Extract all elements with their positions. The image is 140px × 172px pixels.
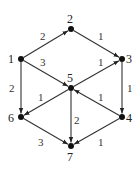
- edge-5-to-6: [24, 90, 68, 116]
- edge-weight-label: 1: [98, 56, 104, 68]
- graph-diagram: 21312111231 1234567: [0, 0, 140, 172]
- edge-weight-label: 1: [38, 91, 44, 103]
- node-5: [68, 85, 74, 91]
- node-label: 7: [67, 150, 73, 164]
- edge-weight-label: 2: [40, 30, 46, 42]
- edge-2-to-3: [74, 31, 119, 58]
- edge-weight-label: 2: [74, 114, 80, 126]
- node-4: [119, 114, 125, 120]
- edge-weight-label: 1: [127, 82, 133, 94]
- edge-weight-label: 3: [40, 56, 46, 68]
- node-label: 1: [8, 52, 14, 66]
- edge-weight-label: 2: [9, 82, 15, 94]
- node-2: [68, 26, 74, 32]
- edge-weight-label: 1: [98, 91, 104, 103]
- node-label: 3: [126, 52, 132, 66]
- node-1: [18, 56, 24, 62]
- edge-6-to-7: [24, 119, 68, 145]
- edge-5-to-3: [74, 61, 119, 87]
- node-3: [119, 56, 125, 62]
- edge-weight-label: 1: [98, 136, 104, 148]
- edge-1-to-2: [24, 31, 68, 58]
- node-label: 6: [8, 111, 14, 125]
- node-label: 5: [67, 71, 73, 85]
- node-7: [68, 143, 74, 149]
- edge-weight-label: 1: [98, 30, 104, 42]
- edge-weight-label: 3: [38, 136, 44, 148]
- edge-4-to-7: [74, 118, 119, 144]
- node-6: [18, 114, 24, 120]
- node-label: 4: [126, 111, 132, 125]
- edge-1-to-5: [24, 61, 68, 87]
- node-label: 2: [67, 12, 73, 26]
- edge-4-to-5: [74, 90, 119, 116]
